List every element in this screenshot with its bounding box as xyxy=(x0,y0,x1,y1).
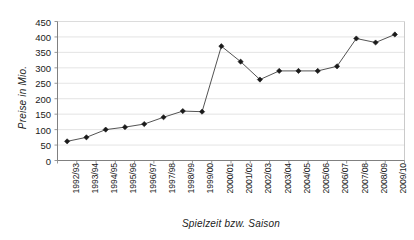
plot-background xyxy=(58,22,405,161)
line-plot xyxy=(0,0,414,240)
chart-container: Preise in Mio. Spielzeit bzw. Saison 050… xyxy=(0,0,414,240)
